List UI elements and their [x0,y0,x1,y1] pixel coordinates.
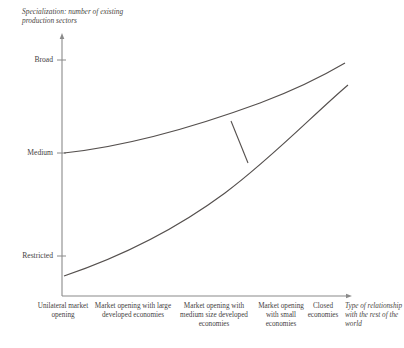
series-lower-curve [64,85,348,276]
y-tick-label-broad: Broad [0,55,53,64]
y-tick-label-restricted: Restricted [0,251,53,260]
x-tick-label-medium-size-developed-economies: Market opening with medium size develope… [172,302,256,330]
series-upper-curve [64,63,345,153]
x-tick-label-large-developed-economies: Market opening with large developed econ… [92,302,174,320]
y-axis-title: Specialization: number of existing produ… [22,7,130,26]
chart-plot-area [0,0,404,348]
x-axis-title: Type of relationship with the rest of th… [345,302,403,330]
chart-figure: Specialization: number of existing produ… [0,0,404,348]
y-axis-arrowhead [60,33,65,39]
x-axis-arrowhead [346,294,352,299]
y-tick-label-medium: Medium [0,148,53,157]
gap-indicator-line [231,121,248,163]
x-tick-label-unilateral-market-opening: Unilateral market opening [32,302,94,320]
x-tick-label-closed-economies: Closed economies [300,302,346,320]
